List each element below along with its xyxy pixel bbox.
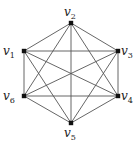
vertex-v4: [116, 94, 120, 98]
vertex-v2: [69, 21, 73, 25]
vertex-label-v3: v3: [121, 44, 133, 60]
edge-v4-v5: [71, 96, 118, 123]
vertex-label-v4: v4: [121, 89, 133, 105]
vertex-v1: [22, 49, 26, 53]
vertex-label-v5: v5: [64, 126, 76, 142]
vertex-v3: [116, 49, 120, 53]
edge-group: [24, 23, 118, 123]
edge-v5-v6: [24, 96, 71, 123]
vertex-v6: [22, 94, 26, 98]
edge-v1-v2: [24, 23, 71, 51]
graph-diagram: v1v2v3v4v5v6: [0, 0, 137, 143]
vertex-label-v1: v1: [3, 44, 15, 60]
vertex-v5: [69, 121, 73, 125]
vertex-label-v6: v6: [3, 89, 15, 105]
vertex-label-v2: v2: [64, 5, 76, 21]
edge-v2-v3: [71, 23, 118, 51]
